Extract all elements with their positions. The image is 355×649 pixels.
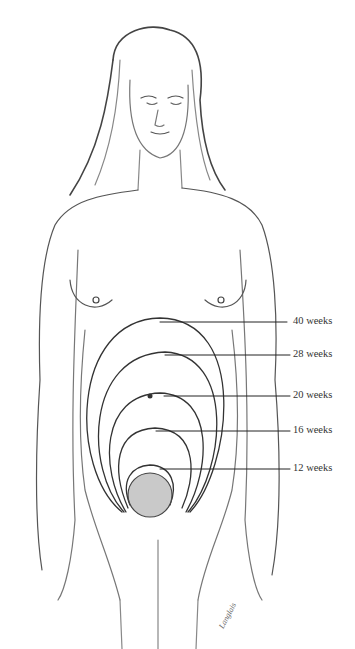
label-40-weeks: 40 weeks — [293, 315, 332, 326]
label-12-weeks: 12 weeks — [293, 462, 332, 473]
label-16-weeks: 16 weeks — [293, 424, 332, 435]
label-20-weeks: 20 weeks — [293, 389, 332, 400]
label-28-weeks: 28 weeks — [293, 348, 332, 359]
illustration-canvas: 40 weeks 28 weeks 20 weeks 16 weeks 12 w… — [0, 0, 355, 649]
